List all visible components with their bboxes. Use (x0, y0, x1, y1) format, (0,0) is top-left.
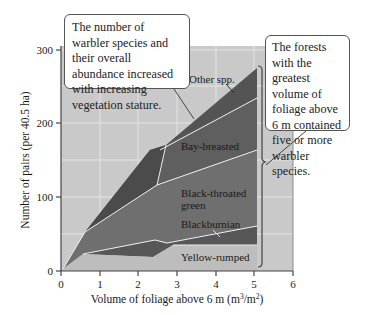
callout-greatest-foliage: The forests with the greatest volume of … (265, 35, 350, 131)
y-tick-300: 300 (37, 44, 54, 56)
label-black-throated-1: Black-throated (181, 187, 247, 199)
callout-species-abundance: The number of warbler species and their … (64, 14, 190, 89)
x-tick-1: 1 (97, 278, 103, 290)
label-other-spp: Other spp. (189, 73, 235, 85)
x-tick-2: 2 (135, 278, 141, 290)
x-tick-0: 0 (58, 278, 64, 290)
label-yellow-rumped: Yellow-rumped (181, 251, 250, 263)
label-black-throated-2: green (181, 199, 206, 211)
label-blackburnian: Blackburnian (181, 218, 241, 230)
y-axis-title: Number of pairs (per 40.5 ha) (19, 91, 32, 228)
y-tick-100: 100 (37, 191, 54, 203)
x-tick-4: 4 (213, 278, 219, 290)
label-bay-breasted: Bay-breasted (181, 140, 240, 152)
y-tick-200: 200 (37, 117, 54, 129)
x-axis-title: Volume of foliage above 6 m (m3/m2) (91, 292, 264, 306)
x-tick-3: 3 (174, 278, 180, 290)
y-tick-0: 0 (48, 265, 54, 277)
x-tick-5: 5 (251, 278, 257, 290)
x-tick-6: 6 (290, 278, 296, 290)
